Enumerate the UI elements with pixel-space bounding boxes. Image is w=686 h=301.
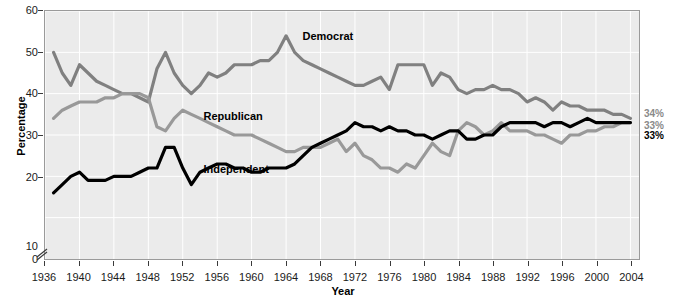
x-tick-mark [424, 261, 425, 266]
x-tick-mark [493, 261, 494, 266]
x-tick-mark [286, 261, 287, 266]
y-axis-title: Percentage [15, 81, 27, 171]
x-tick-mark [148, 261, 149, 266]
series-label-independent: Independent [203, 164, 268, 175]
x-axis-title: Year [0, 285, 686, 297]
x-tick-mark [459, 261, 460, 266]
x-tick-mark [355, 261, 356, 266]
x-tick-mark [251, 261, 252, 266]
x-tick-label: 2004 [611, 272, 651, 283]
axis-break-icon [36, 244, 50, 262]
x-tick-mark [528, 261, 529, 266]
party-identification-line-chart: 6050403020100 19361940194419481952195619… [0, 0, 686, 301]
end-value-republican: 33% [644, 121, 664, 131]
x-axis-ticks: 1936194019441948195219561960196419681972… [0, 0, 686, 301]
x-tick-mark [217, 261, 218, 266]
series-label-democrat: Democrat [302, 31, 353, 42]
x-tick-mark [79, 261, 80, 266]
series-label-republican: Republican [203, 111, 262, 122]
x-tick-mark [320, 261, 321, 266]
x-tick-mark [113, 261, 114, 266]
x-tick-mark [597, 261, 598, 266]
x-tick-mark [390, 261, 391, 266]
end-value-democrat: 34% [644, 109, 664, 119]
x-tick-mark [631, 261, 632, 266]
end-value-independent: 33% [644, 131, 664, 141]
x-tick-mark [182, 261, 183, 266]
x-tick-mark [562, 261, 563, 266]
